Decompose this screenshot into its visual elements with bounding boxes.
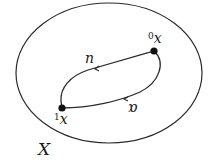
point-p1-label: 1x xyxy=(54,111,68,127)
space-label: X xyxy=(36,139,51,159)
lower-path-label: ɒ xyxy=(128,99,138,115)
lower-path xyxy=(62,51,160,108)
point-p0 xyxy=(150,47,157,54)
space-boundary xyxy=(16,3,202,143)
upper-path-label: n xyxy=(85,50,94,66)
upper-path xyxy=(61,51,154,108)
loop-diagram: 0x 1x n ɒ X xyxy=(0,0,214,167)
point-p0-label: 0x xyxy=(148,30,162,46)
